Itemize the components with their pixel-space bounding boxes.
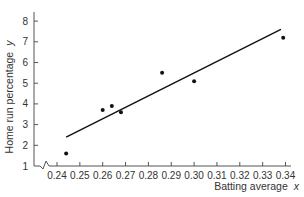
data-point bbox=[160, 71, 164, 75]
data-point bbox=[119, 110, 123, 114]
x-tick-label: 0.24 bbox=[47, 170, 67, 181]
y-tick-label: 7 bbox=[22, 36, 28, 47]
x-tick-label: 0.29 bbox=[162, 170, 182, 181]
data-points bbox=[64, 36, 285, 156]
x-tick-label: 0.28 bbox=[139, 170, 159, 181]
y-axis: 12345678 bbox=[22, 12, 38, 172]
y-tick-label: 8 bbox=[22, 16, 28, 27]
x-tick-label: 0.30 bbox=[184, 170, 204, 181]
y-tick-label: 6 bbox=[22, 57, 28, 68]
x-tick-label: 0.26 bbox=[93, 170, 113, 181]
data-point bbox=[110, 104, 114, 108]
x-tick-label: 0.25 bbox=[70, 170, 90, 181]
y-tick-label: 3 bbox=[22, 119, 28, 130]
y-tick-label: 4 bbox=[22, 98, 28, 109]
regression-line bbox=[66, 29, 281, 137]
scatter-chart: 12345678 0.240.250.260.270.280.290.300.3… bbox=[0, 0, 304, 197]
x-axis-label: Batting averagex bbox=[214, 180, 300, 192]
data-point bbox=[281, 36, 285, 40]
data-point bbox=[64, 152, 68, 156]
x-axis: 0.240.250.260.270.280.290.300.310.320.33… bbox=[34, 161, 296, 181]
data-point bbox=[101, 108, 105, 112]
x-tick-label: 0.27 bbox=[116, 170, 136, 181]
y-tick-label: 2 bbox=[22, 140, 28, 151]
y-axis-label: Home run percentagey bbox=[3, 40, 15, 154]
y-tick-label: 1 bbox=[22, 161, 28, 172]
y-tick-label: 5 bbox=[22, 78, 28, 89]
data-point bbox=[192, 79, 196, 83]
